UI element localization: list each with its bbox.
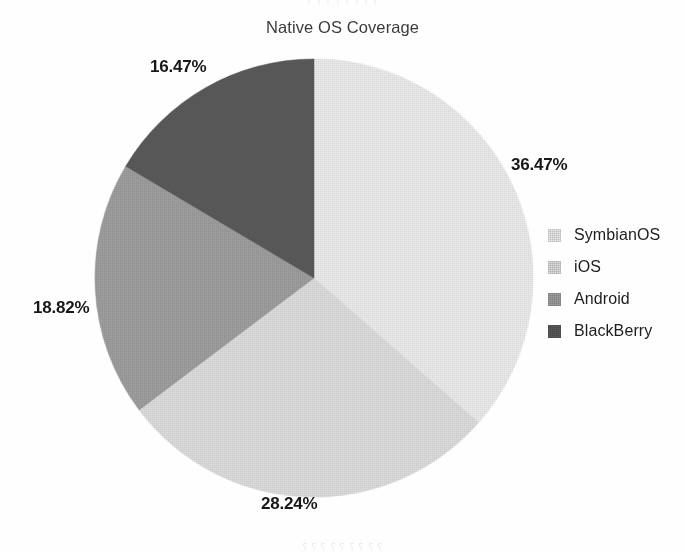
legend-item-blackberry: BlackBerry bbox=[548, 315, 660, 347]
data-label-android: 18.82% bbox=[33, 298, 89, 318]
chart-legend: SymbianOS iOS Android BlackBerry bbox=[548, 219, 660, 347]
pie-chart-figure: ⸮ ⸮ ⸮ ⸮ ⸮ ⸮ ⸮ ⸮ Native OS Coverage 36.47… bbox=[0, 0, 685, 552]
data-label-blackberry: 16.47% bbox=[150, 57, 206, 77]
data-label-ios: 28.24% bbox=[261, 494, 317, 514]
legend-item-android: Android bbox=[548, 283, 660, 315]
legend-swatch-ios bbox=[548, 261, 561, 274]
legend-label-android: Android bbox=[574, 290, 630, 308]
legend-swatch-blackberry bbox=[548, 325, 561, 338]
legend-label-ios: iOS bbox=[574, 258, 601, 276]
scan-artifact-top: ⸮ ⸮ ⸮ ⸮ ⸮ ⸮ ⸮ ⸮ bbox=[0, 0, 685, 7]
legend-swatch-android bbox=[548, 293, 561, 306]
legend-item-symbianos: SymbianOS bbox=[548, 219, 660, 251]
pie-slice-group bbox=[95, 59, 533, 497]
legend-item-ios: iOS bbox=[548, 251, 660, 283]
scan-artifact-bottom: ⸮ ⸮ ⸮ ⸮ ⸮ ⸮ ⸮ ⸮ ⸮ bbox=[0, 541, 685, 552]
data-label-symbianos: 36.47% bbox=[511, 155, 567, 175]
legend-label-blackberry: BlackBerry bbox=[574, 322, 652, 340]
pie-plot-area bbox=[94, 58, 534, 498]
pie-svg bbox=[94, 58, 534, 498]
legend-swatch-symbianos bbox=[548, 229, 561, 242]
legend-label-symbianos: SymbianOS bbox=[574, 226, 660, 244]
chart-title: Native OS Coverage bbox=[0, 18, 685, 37]
